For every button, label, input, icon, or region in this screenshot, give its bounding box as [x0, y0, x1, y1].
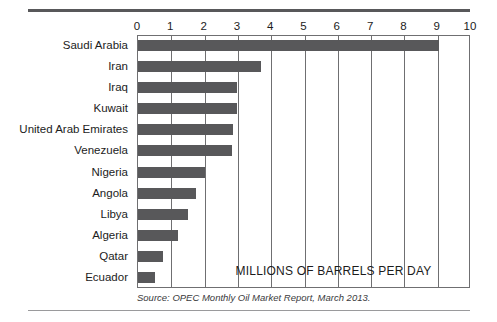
x-tick-label: 8 [400, 19, 406, 33]
bar [138, 188, 196, 199]
bar [138, 61, 261, 72]
bar-row [138, 57, 469, 78]
plot-area: MILLIONS OF BARRELS PER DAY [137, 35, 470, 288]
category-label: Kuwait [93, 98, 128, 119]
bar-row [138, 226, 469, 247]
category-label: Qatar [99, 246, 128, 267]
bar [138, 230, 178, 241]
source-note: Source: OPEC Monthly Oil Market Report, … [137, 292, 370, 303]
x-tick-label: 1 [167, 19, 173, 33]
top-divider-rule [28, 9, 470, 12]
x-tick-label: 5 [300, 19, 306, 33]
bar [138, 82, 237, 93]
bar-rows [138, 36, 469, 287]
category-label: Libya [101, 204, 129, 225]
category-label: Angola [92, 183, 128, 204]
category-label: United Arab Emirates [19, 119, 128, 140]
x-tick-label: 6 [334, 19, 340, 33]
category-label: Venezuela [74, 140, 128, 161]
category-label: Ecuador [85, 267, 128, 288]
bar [138, 167, 205, 178]
bar [138, 40, 439, 51]
bar [138, 124, 233, 135]
bar [138, 145, 232, 156]
category-label: Saudi Arabia [63, 35, 128, 56]
x-tick-label: 4 [267, 19, 273, 33]
bar-row [138, 184, 469, 205]
bar-row [138, 163, 469, 184]
bar [138, 103, 237, 114]
x-axis-caption: MILLIONS OF BARRELS PER DAY [138, 264, 469, 278]
x-tick-label: 3 [234, 19, 240, 33]
x-tick-label: 2 [200, 19, 206, 33]
bottom-divider-rule [28, 310, 470, 311]
bar [138, 251, 163, 262]
category-label: Algeria [92, 225, 128, 246]
x-tick-label: 7 [367, 19, 373, 33]
bar-row [138, 141, 469, 162]
bar-row [138, 120, 469, 141]
x-tick-label: 10 [464, 19, 477, 33]
category-label: Nigeria [92, 162, 128, 183]
bar-row [138, 205, 469, 226]
category-label: Iran [108, 56, 128, 77]
category-label: Iraq [108, 77, 128, 98]
bar [138, 209, 188, 220]
oil-production-bar-chart: 012345678910 MILLIONS OF BARRELS PER DAY… [0, 0, 497, 322]
bar-row [138, 99, 469, 120]
bar-row [138, 78, 469, 99]
category-labels: Saudi ArabiaIranIraqKuwaitUnited Arab Em… [0, 35, 133, 288]
x-tick-label: 0 [134, 19, 140, 33]
x-axis-tick-labels: 012345678910 [137, 19, 470, 33]
x-tick-label: 9 [433, 19, 439, 33]
bar-row [138, 36, 469, 57]
